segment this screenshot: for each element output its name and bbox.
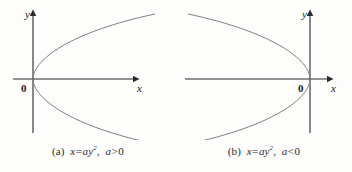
- origin-label-a: 0: [21, 82, 27, 94]
- caption-a: (a) x=ay2, a>0: [0, 144, 176, 157]
- origin-label-b: 0: [298, 82, 304, 94]
- caption-condition-op-b: <: [287, 145, 294, 157]
- parabola-upper-b: [188, 14, 310, 79]
- caption-condition-value-a: 0: [118, 145, 124, 157]
- panel-b: y x 0 (b) x=ay2, a<0: [176, 0, 352, 172]
- y-axis-label-a: y: [24, 8, 30, 20]
- plot-a: y x 0: [0, 0, 176, 140]
- caption-tag-b: (b): [228, 145, 241, 157]
- caption-lhs-b: x: [247, 145, 252, 157]
- plot-b: y x 0: [176, 0, 352, 140]
- caption-b: (b) x=ay2, a<0: [176, 144, 352, 157]
- caption-tag-a: (a): [52, 145, 65, 157]
- caption-condition-value-b: 0: [295, 145, 301, 157]
- panel-a: y x 0 (a) x=ay2, a>0: [0, 0, 176, 172]
- parabola-upper-a: [33, 14, 155, 79]
- x-axis-label-a: x: [136, 82, 142, 94]
- caption-comma-a: ,: [97, 145, 100, 157]
- caption-equals-b: =: [252, 145, 259, 157]
- x-axis-label-b: x: [330, 82, 336, 94]
- parabola-figure: y x 0 (a) x=ay2, a>0: [0, 0, 352, 172]
- caption-equals-a: =: [75, 145, 82, 157]
- caption-comma-b: ,: [273, 145, 276, 157]
- y-axis-label-b: y: [301, 8, 307, 20]
- parabola-lower-b: [188, 79, 310, 140]
